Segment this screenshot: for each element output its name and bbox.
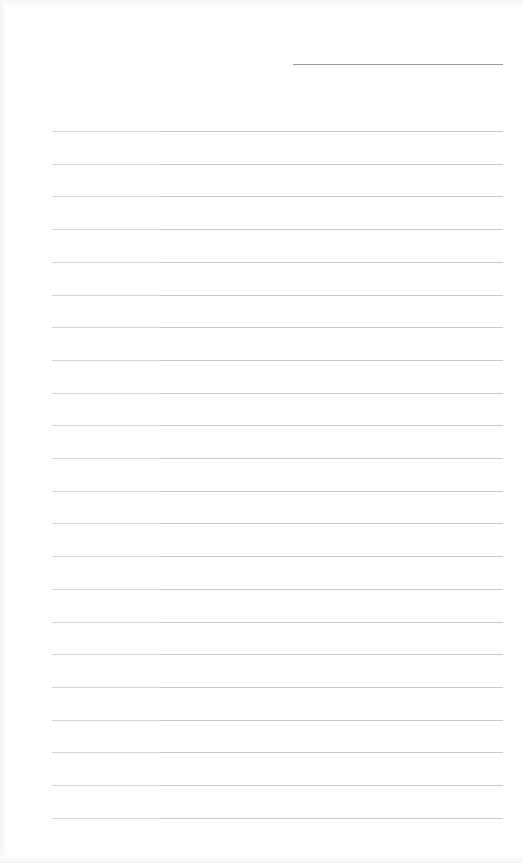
- ruled-line-margin-segment: [52, 131, 160, 132]
- ruled-line-margin-segment: [52, 785, 160, 786]
- lined-paper-page: [0, 0, 523, 863]
- ruled-line-margin-segment: [52, 295, 160, 296]
- ruled-line: [52, 262, 503, 263]
- ruled-line: [52, 687, 503, 688]
- ruled-line-margin-segment: [52, 818, 160, 819]
- ruled-line-margin-segment: [52, 523, 160, 524]
- ruled-line-margin-segment: [52, 196, 160, 197]
- ruled-line-margin-segment: [52, 491, 160, 492]
- ruled-line-margin-segment: [52, 720, 160, 721]
- ruled-line: [52, 818, 503, 819]
- ruled-line-margin-segment: [52, 229, 160, 230]
- ruled-line: [52, 295, 503, 296]
- page-top-edge: [0, 0, 523, 6]
- ruled-line-margin-segment: [52, 654, 160, 655]
- ruled-line-margin-segment: [52, 556, 160, 557]
- ruled-line: [52, 622, 503, 623]
- ruled-line: [52, 131, 503, 132]
- ruled-line: [52, 589, 503, 590]
- ruled-line-margin-segment: [52, 262, 160, 263]
- ruled-line-margin-segment: [52, 752, 160, 753]
- ruled-line: [52, 425, 503, 426]
- page-bottom-edge: [0, 855, 523, 863]
- page-left-edge: [0, 0, 6, 863]
- ruled-line: [52, 491, 503, 492]
- ruled-line: [52, 458, 503, 459]
- ruled-line: [52, 229, 503, 230]
- ruled-line: [52, 752, 503, 753]
- ruled-line-margin-segment: [52, 425, 160, 426]
- ruled-line-margin-segment: [52, 164, 160, 165]
- ruled-line: [52, 720, 503, 721]
- ruled-line-margin-segment: [52, 589, 160, 590]
- ruled-line: [52, 327, 503, 328]
- ruled-line-margin-segment: [52, 458, 160, 459]
- ruled-line: [52, 523, 503, 524]
- ruled-line-margin-segment: [52, 360, 160, 361]
- ruled-line: [52, 196, 503, 197]
- ruled-line: [52, 164, 503, 165]
- ruled-line-margin-segment: [52, 393, 160, 394]
- ruled-line-margin-segment: [52, 327, 160, 328]
- ruled-line: [52, 785, 503, 786]
- ruled-line: [52, 654, 503, 655]
- ruled-line: [52, 393, 503, 394]
- ruled-line: [52, 556, 503, 557]
- ruled-line: [52, 360, 503, 361]
- ruled-line-margin-segment: [52, 622, 160, 623]
- ruled-line-margin-segment: [52, 687, 160, 688]
- header-blank-field: [293, 64, 503, 65]
